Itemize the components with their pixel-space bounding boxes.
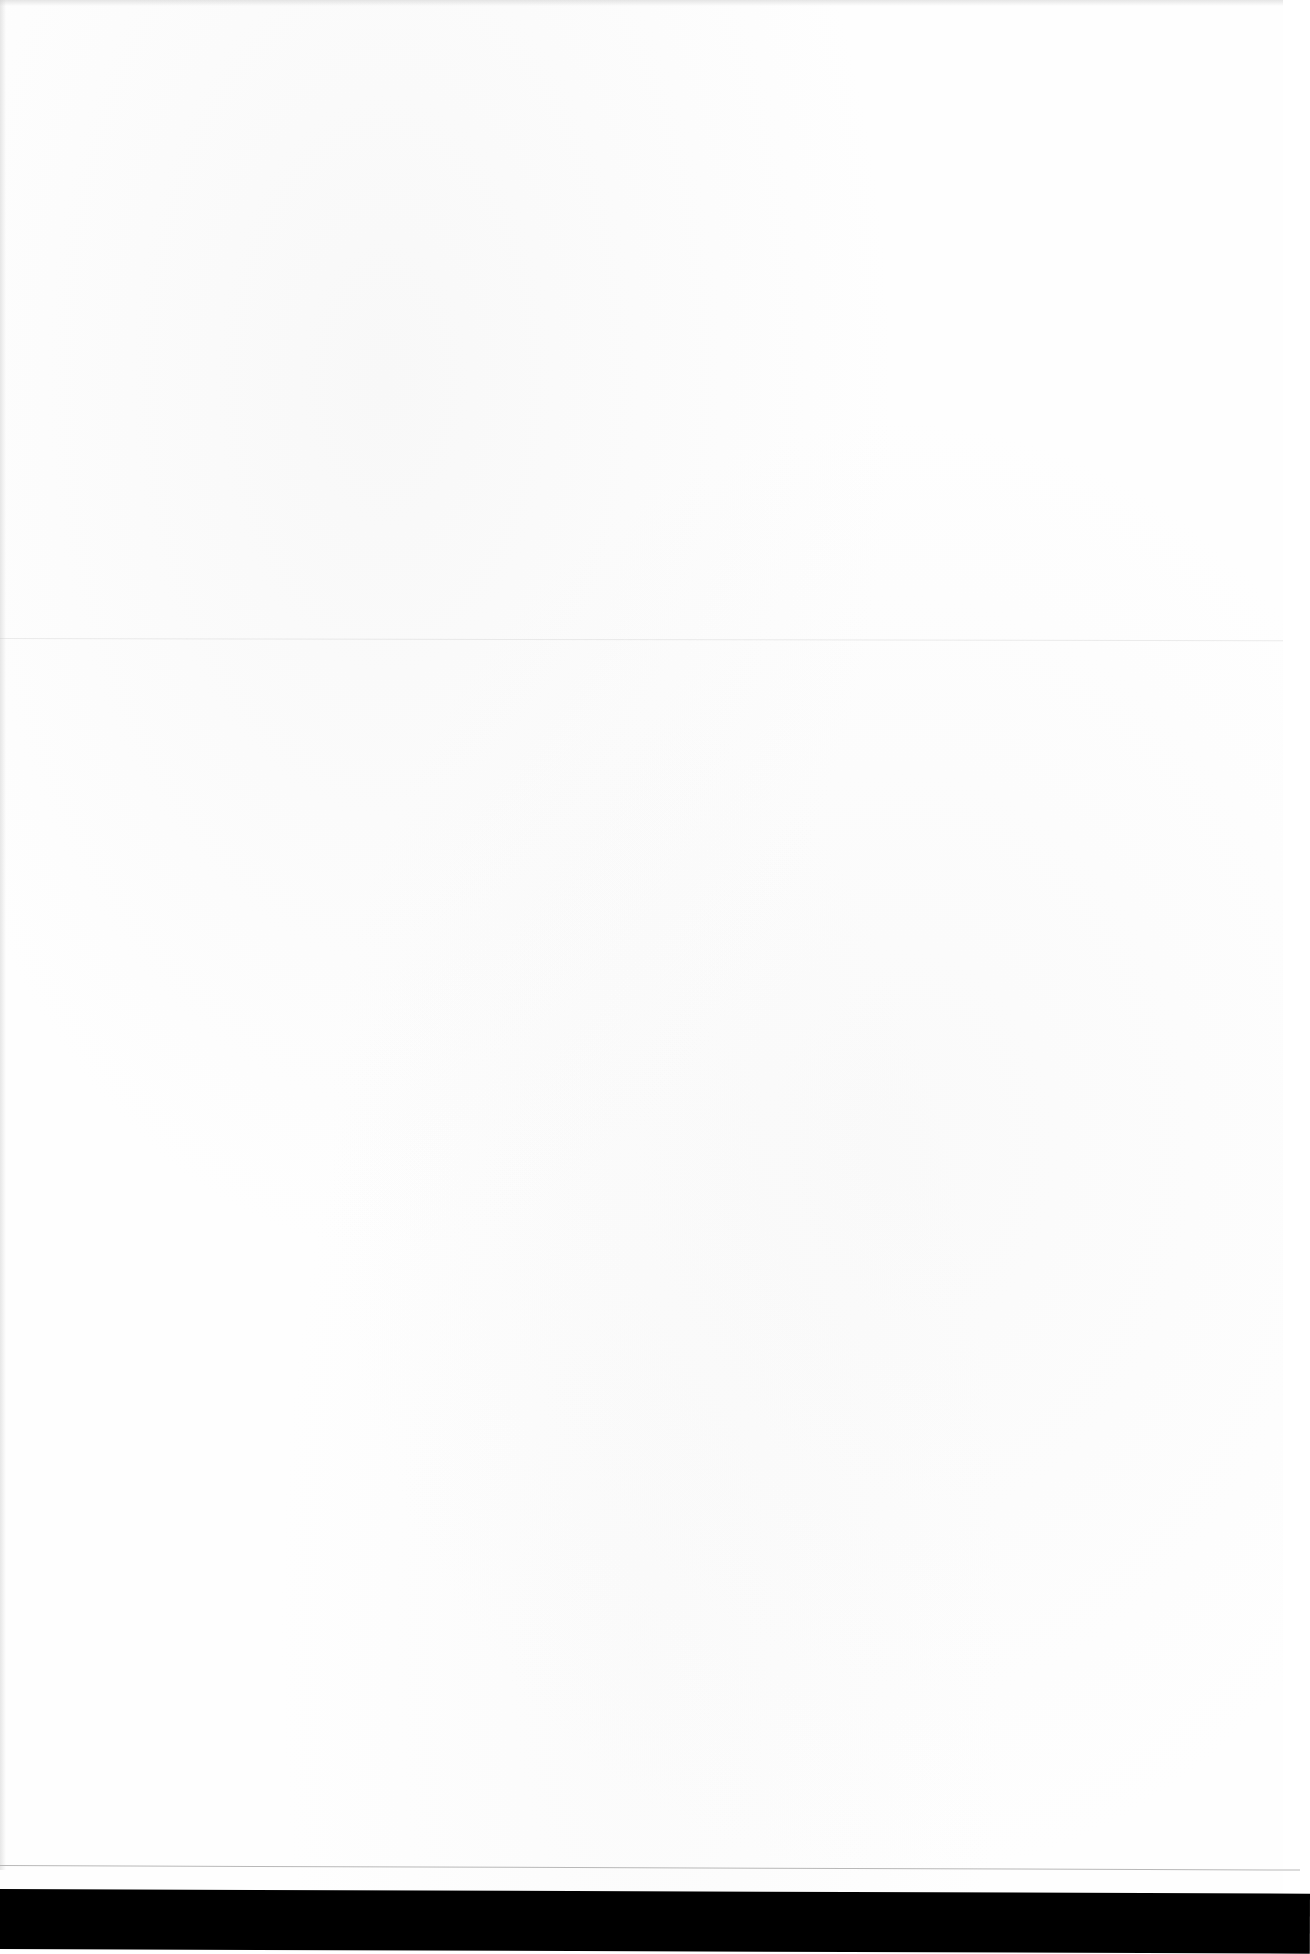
page-top-edge-shadow — [0, 0, 1283, 6]
page-left-edge-shadow — [0, 0, 6, 1870]
scanner-black-border — [0, 1889, 1310, 1954]
